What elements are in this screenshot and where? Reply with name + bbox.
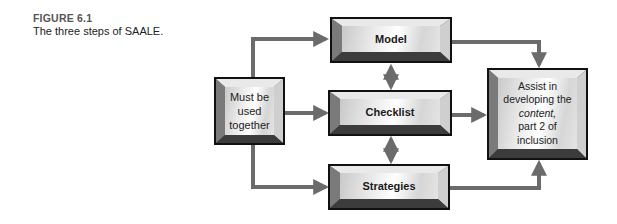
node-text-line: together (229, 118, 269, 132)
node-label: Checklist (366, 106, 415, 118)
node-model: Model (330, 17, 452, 63)
node-label: Strategies (362, 180, 415, 192)
node-text-line: inclusion (517, 134, 558, 148)
node-text-line: Must be (230, 90, 269, 104)
node-strategies: Strategies (328, 164, 450, 210)
node-checklist: Checklist (328, 90, 452, 136)
edge-source-model (253, 39, 326, 78)
edge-model-result (452, 42, 539, 65)
node-text-line: part 2 of (518, 120, 557, 134)
node-text-line: developing the (503, 93, 571, 107)
edge-strategies-result (449, 163, 539, 188)
node-label: Model (375, 33, 407, 45)
node-face: Checklist (340, 99, 440, 125)
node-face: Must be used together (225, 87, 274, 135)
node-must-be-used-together: Must be used together (214, 77, 285, 145)
node-assist-in-developing-content: Assist in developing the content, part 2… (487, 68, 588, 160)
node-face: Model (342, 26, 440, 52)
node-text-line: used (238, 104, 262, 118)
edge-source-strategies (253, 145, 326, 187)
node-text-line-italic: content, (519, 107, 556, 121)
node-text-line: Assist in (518, 80, 557, 94)
node-face: Strategies (340, 173, 438, 199)
node-face: Assist in developing the content, part 2… (498, 78, 577, 149)
